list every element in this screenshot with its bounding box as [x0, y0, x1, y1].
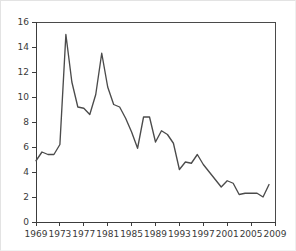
- x-tick-label: 2005: [240, 229, 263, 239]
- x-tick-label: 2009: [264, 229, 287, 239]
- y-tick-label: 0: [23, 217, 29, 227]
- x-tick-label: 1977: [72, 229, 95, 239]
- x-tick-label: 1997: [192, 229, 215, 239]
- x-tick-label: 1985: [120, 229, 143, 239]
- y-tick-label: 8: [23, 117, 29, 127]
- x-tick-label: 1969: [25, 229, 48, 239]
- y-tick-label: 6: [23, 142, 29, 152]
- y-tick-label: 12: [18, 67, 29, 77]
- x-tick-label: 1989: [144, 229, 167, 239]
- plot-background: [36, 22, 275, 222]
- y-tick-label: 10: [18, 92, 30, 102]
- line-chart: 0246810121416 19691973197719811985198919…: [1, 1, 296, 251]
- y-axis: 0246810121416: [18, 17, 36, 227]
- y-tick-label: 16: [18, 17, 30, 27]
- y-tick-label: 14: [18, 42, 30, 52]
- y-tick-label: 4: [23, 167, 29, 177]
- chart-figure: 0246810121416 19691973197719811985198919…: [0, 0, 296, 251]
- x-tick-label: 1981: [96, 229, 119, 239]
- x-tick-label: 1993: [168, 229, 191, 239]
- y-tick-label: 2: [23, 192, 29, 202]
- x-axis: 1969197319771981198519891993199720012005…: [25, 222, 287, 239]
- x-tick-label: 2001: [216, 229, 239, 239]
- x-tick-label: 1973: [48, 229, 71, 239]
